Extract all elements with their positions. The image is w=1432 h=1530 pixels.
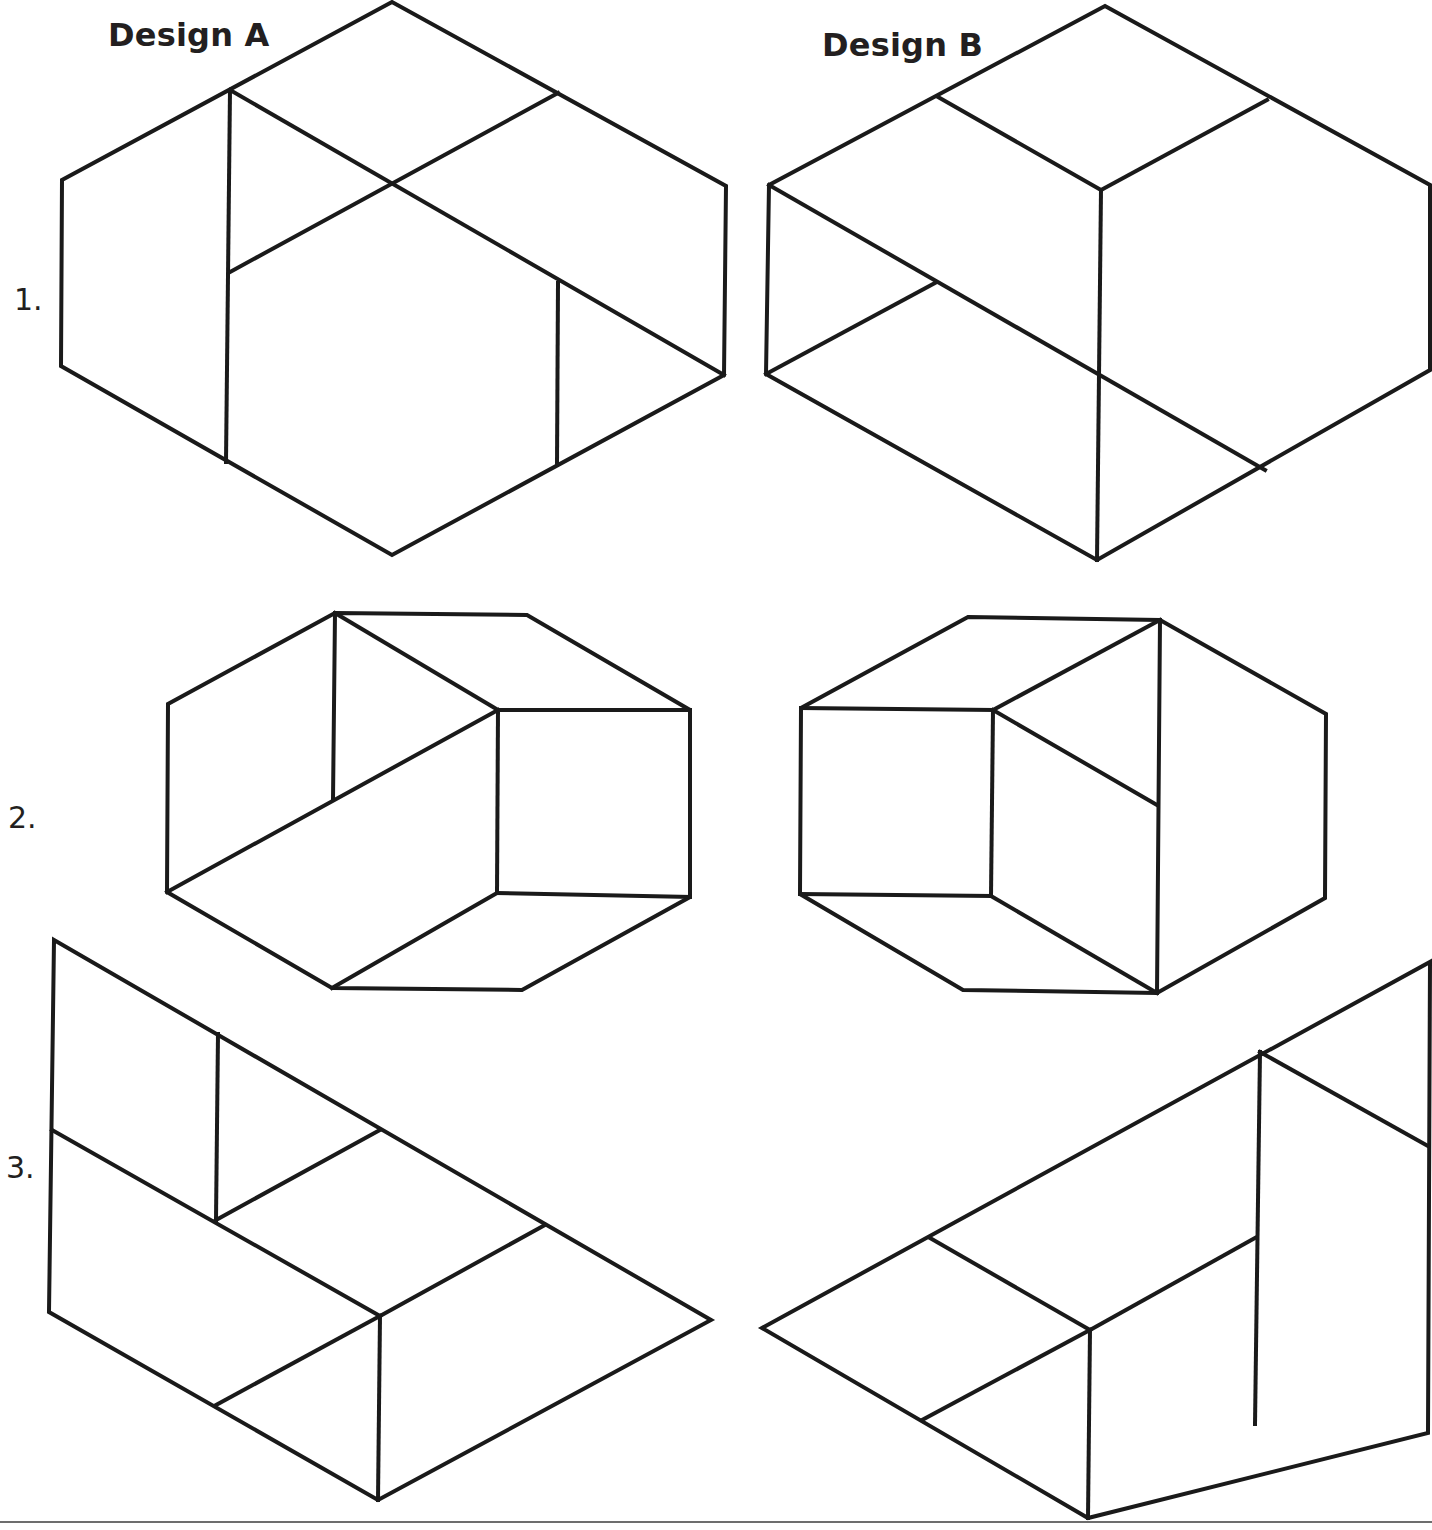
figure-2b: [800, 617, 1326, 993]
isometric-figures: [0, 0, 1432, 1530]
figure-1b: [766, 6, 1430, 560]
figure-2a: [167, 613, 690, 990]
figure-3a: [49, 940, 711, 1500]
page-bottom-rule: [0, 1521, 1432, 1523]
figure-1a: [61, 2, 726, 555]
figure-3b: [762, 962, 1430, 1518]
